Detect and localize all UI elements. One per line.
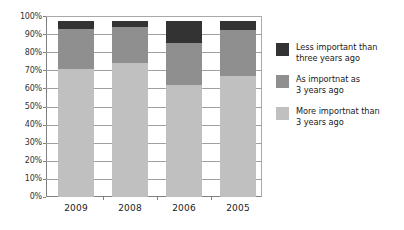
legend-label-more-important: More importnat than 3 years ago [296,106,380,127]
bar-2008[interactable] [112,16,148,197]
y-axis-label-20: 20% [2,157,42,165]
x-tick-mark-3 [211,197,212,200]
y-axis-label-70: 70% [2,67,42,75]
y-axis-label-0: 0% [2,193,42,201]
bar-2009[interactable] [58,16,94,197]
y-axis-label-80: 80% [2,49,42,57]
y-axis-label-40: 40% [2,121,42,129]
y-axis-label-100: 100% [2,13,42,21]
bar-2005[interactable] [220,16,256,197]
y-axis-label-90: 90% [2,31,42,39]
bar-group-2009 [58,16,94,197]
x-axis-label-2008: 2008 [100,203,160,213]
bars-layer [46,16,262,197]
x-axis-label-2009: 2009 [46,203,106,213]
legend-swatch-less-important [276,43,289,56]
legend-item-more-important[interactable]: More importnat than 3 years ago [276,106,400,127]
bar-segment-2005-less[interactable] [220,21,256,30]
y-axis-label-50: 50% [2,103,42,111]
y-axis-label-60: 60% [2,85,42,93]
x-tick-mark-1 [103,197,104,200]
bar-segment-2006-as[interactable] [166,43,202,85]
bar-segment-2006-more[interactable] [166,85,202,197]
y-axis-label-30: 30% [2,139,42,147]
legend-label-as-important: As importnat as 3 years ago [296,74,360,95]
bar-group-2006 [166,16,202,197]
legend-item-as-important[interactable]: As importnat as 3 years ago [276,74,400,95]
x-tick-mark-2 [157,197,158,200]
legend-label-less-important: Less important than three years ago [296,42,377,63]
bar-segment-2009-less[interactable] [58,21,94,28]
legend-swatch-as-important [276,75,289,88]
stacked-bar-chart: 100% 90% 80% 70% 60% 50% 40% 30% 20% 10%… [0,0,404,230]
legend-swatch-more-important [276,107,289,120]
plot-area [46,16,262,197]
bar-segment-2005-as[interactable] [220,30,256,75]
chart-legend: Less important than three years ago As i… [276,42,400,138]
bar-segment-2009-more[interactable] [58,69,94,198]
bar-segment-2008-as[interactable] [112,27,148,63]
y-tick-mark-0 [43,197,46,198]
bar-segment-2009-as[interactable] [58,29,94,69]
bar-segment-2005-more[interactable] [220,76,256,197]
x-axis-label-2006: 2006 [154,203,214,213]
bar-segment-2008-more[interactable] [112,63,148,197]
bar-group-2005 [220,16,256,197]
bar-2006[interactable] [166,16,202,197]
y-axis-label-10: 10% [2,175,42,183]
bar-group-2008 [112,16,148,197]
bar-segment-2006-less[interactable] [166,21,202,43]
bar-segment-2008-less[interactable] [112,21,148,26]
legend-item-less-important[interactable]: Less important than three years ago [276,42,400,63]
x-axis-label-2005: 2005 [208,203,268,213]
